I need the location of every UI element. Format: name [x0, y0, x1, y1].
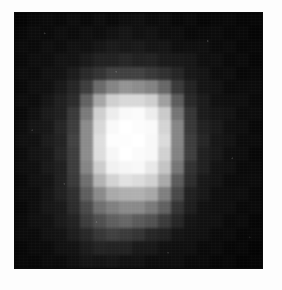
- pixel-cell: [210, 94, 223, 107]
- pixel-cell: [28, 147, 41, 160]
- pixel-cell: [54, 80, 67, 93]
- pixel-cell: [54, 228, 67, 241]
- pixel-cell: [249, 26, 262, 39]
- pixel-cell: [236, 94, 249, 107]
- pixel-cell: [41, 40, 54, 53]
- pixel-cell: [210, 255, 223, 268]
- pixel-cell: [145, 255, 158, 268]
- pixel-cell: [119, 228, 132, 241]
- pixel-cell: [41, 26, 54, 39]
- pixel-cell: [106, 255, 119, 268]
- pixel-cell: [210, 241, 223, 254]
- pixel-cell: [210, 53, 223, 66]
- pixel-cell: [41, 120, 54, 133]
- pixel-cell: [54, 255, 67, 268]
- pixel-cell: [223, 13, 236, 26]
- pixel-cell: [119, 161, 132, 174]
- pixel-cell: [15, 53, 28, 66]
- pixel-cell: [67, 187, 80, 200]
- pixel-cell: [210, 80, 223, 93]
- pixel-cell: [54, 67, 67, 80]
- pixel-cell: [93, 187, 106, 200]
- pixel-cell: [223, 107, 236, 120]
- pixel-cell: [54, 241, 67, 254]
- pixel-cell: [106, 201, 119, 214]
- pixel-cell: [184, 228, 197, 241]
- pixel-cell: [184, 161, 197, 174]
- pixel-cell: [80, 255, 93, 268]
- pixel-cell: [28, 161, 41, 174]
- pixel-cell: [15, 107, 28, 120]
- pixel-cell: [236, 80, 249, 93]
- pixel-cell: [197, 187, 210, 200]
- pixel-cell: [67, 53, 80, 66]
- pixel-cell: [28, 67, 41, 80]
- pixel-cell: [15, 13, 28, 26]
- pixel-cell: [171, 13, 184, 26]
- pixel-cell: [67, 241, 80, 254]
- pixel-cell: [132, 94, 145, 107]
- pixel-cell: [249, 147, 262, 160]
- pixel-cell: [171, 228, 184, 241]
- pixel-cell: [15, 214, 28, 227]
- pixel-cell: [132, 26, 145, 39]
- pixel-cell: [80, 147, 93, 160]
- pixel-cell: [171, 107, 184, 120]
- pixel-cell: [249, 214, 262, 227]
- pixel-cell: [210, 120, 223, 133]
- pixel-cell: [132, 107, 145, 120]
- pixel-cell: [197, 228, 210, 241]
- pixel-cell: [80, 134, 93, 147]
- pixel-cell: [54, 26, 67, 39]
- pixel-cell: [93, 201, 106, 214]
- pixel-cell: [197, 161, 210, 174]
- pixel-cell: [28, 187, 41, 200]
- pixel-cell: [184, 94, 197, 107]
- pixel-cell: [210, 134, 223, 147]
- pixel-cell: [171, 53, 184, 66]
- pixel-cell: [236, 174, 249, 187]
- pixel-cell: [41, 134, 54, 147]
- pixel-cell: [15, 187, 28, 200]
- pixel-cell: [15, 40, 28, 53]
- pixel-cell: [197, 174, 210, 187]
- pixel-cell: [171, 214, 184, 227]
- pixel-cell: [171, 187, 184, 200]
- pixel-cell: [145, 241, 158, 254]
- pixel-cell: [41, 174, 54, 187]
- pixel-cell: [223, 67, 236, 80]
- pixel-cell: [145, 40, 158, 53]
- pixel-cell: [158, 67, 171, 80]
- pixel-cell: [223, 228, 236, 241]
- pixel-cell: [15, 94, 28, 107]
- pixel-cell: [145, 161, 158, 174]
- pixel-cell: [54, 187, 67, 200]
- pixel-cell: [223, 94, 236, 107]
- pixel-cell: [67, 228, 80, 241]
- pixel-cell: [145, 13, 158, 26]
- pixel-cell: [158, 80, 171, 93]
- pixel-cell: [28, 201, 41, 214]
- pixel-cell: [145, 53, 158, 66]
- pixel-cell: [158, 161, 171, 174]
- pixel-cell: [132, 134, 145, 147]
- pixel-cell: [210, 13, 223, 26]
- pixel-cell: [28, 94, 41, 107]
- pixel-cell: [145, 107, 158, 120]
- pixel-cell: [171, 161, 184, 174]
- pixel-cell: [93, 67, 106, 80]
- pixel-cell: [223, 120, 236, 133]
- pixel-cell: [158, 53, 171, 66]
- pixel-cell: [184, 147, 197, 160]
- pixel-cell: [223, 174, 236, 187]
- pixel-cell: [106, 80, 119, 93]
- pixel-cell: [67, 201, 80, 214]
- pixel-cell: [171, 94, 184, 107]
- pixel-cell: [80, 214, 93, 227]
- pixel-cell: [41, 255, 54, 268]
- pixel-grid: [15, 13, 262, 268]
- pixel-cell: [54, 120, 67, 133]
- pixel-cell: [67, 161, 80, 174]
- pixel-cell: [67, 214, 80, 227]
- pixel-cell: [54, 161, 67, 174]
